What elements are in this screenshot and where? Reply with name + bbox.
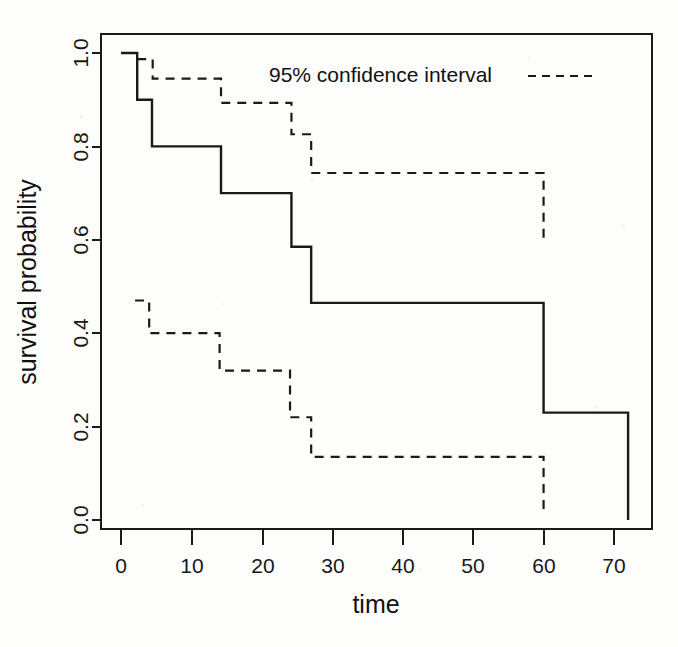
km-survival-curve	[121, 53, 628, 520]
x-tick-label-20: 20	[251, 554, 274, 577]
y-tick-label-0.4: 0.4	[69, 318, 92, 348]
x-tick-label-50: 50	[461, 554, 484, 577]
y-tick-label-0.0: 0.0	[69, 505, 92, 534]
y-axis-ticks	[92, 53, 101, 520]
x-tick-label-10: 10	[180, 554, 203, 577]
x-tick-label-40: 40	[391, 554, 414, 577]
legend-label: 95% confidence interval	[269, 63, 492, 86]
figure-page: 1.0 0.8 0.6 0.4 0.2 0.0 0 10 20 30 40 50…	[0, 0, 678, 647]
x-axis-tick-labels: 0 10 20 30 40 50 60 70	[115, 554, 626, 577]
y-axis-title: survival probability	[13, 179, 41, 385]
y-axis-tick-labels: 1.0 0.8 0.6 0.4 0.2 0.0	[69, 38, 92, 534]
plot-frame	[101, 34, 652, 529]
ci-upper-curve	[137, 59, 543, 240]
x-tick-label-70: 70	[602, 554, 625, 577]
x-axis-ticks	[121, 529, 614, 545]
ci-lower-curve	[135, 301, 543, 511]
legend: 95% confidence interval	[269, 63, 596, 86]
x-tick-label-30: 30	[321, 554, 344, 577]
survival-plot: 1.0 0.8 0.6 0.4 0.2 0.0 0 10 20 30 40 50…	[0, 0, 678, 647]
y-tick-label-0.8: 0.8	[69, 132, 92, 161]
y-tick-label-0.6: 0.6	[69, 225, 92, 254]
x-tick-label-60: 60	[532, 554, 555, 577]
y-tick-label-0.2: 0.2	[69, 412, 92, 441]
x-axis-title: time	[352, 590, 399, 618]
x-tick-label-0: 0	[115, 554, 127, 577]
y-tick-label-1.0: 1.0	[69, 38, 92, 67]
